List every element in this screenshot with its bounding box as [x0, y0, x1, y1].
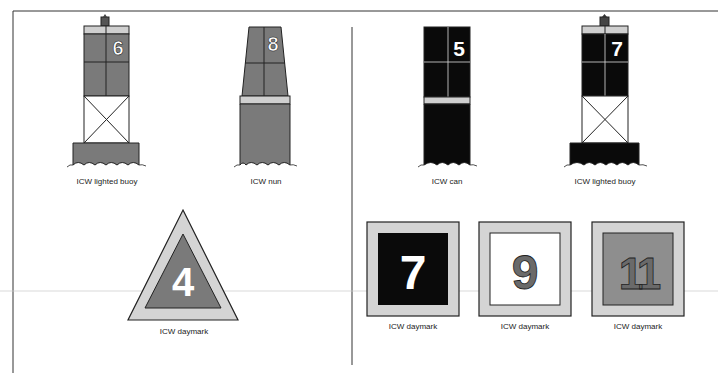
- green-square-daymark-black-icon: 7: [367, 222, 459, 316]
- svg-text:7: 7: [611, 37, 623, 60]
- caption-triangle-daymark: ICW daymark: [160, 327, 208, 336]
- svg-text:9: 9: [512, 246, 539, 299]
- green-can-icon: 5: [418, 27, 477, 167]
- caption-red-nun: ICW nun: [250, 177, 281, 186]
- svg-text:4: 4: [172, 260, 195, 304]
- caption-red-lighted-buoy: ICW lighted buoy: [77, 177, 138, 186]
- red-nun-icon: 8: [234, 27, 297, 167]
- caption-square-daymark-9: ICW daymark: [501, 322, 549, 331]
- svg-text:8: 8: [267, 33, 278, 55]
- svg-text:5: 5: [453, 37, 465, 60]
- caption-square-daymark-7: ICW daymark: [389, 322, 437, 331]
- red-triangle-daymark-icon: 4: [128, 210, 238, 320]
- caption-green-can: ICW can: [432, 177, 463, 186]
- caption-green-lighted-buoy: ICW lighted buoy: [575, 177, 636, 186]
- green-lighted-buoy-icon: 7: [564, 14, 647, 167]
- svg-text:11: 11: [619, 249, 661, 298]
- diagram-canvas: 6 8 5 7 4: [0, 0, 718, 373]
- green-square-daymark-white-icon: 9: [479, 222, 571, 316]
- red-lighted-buoy-icon: 6: [67, 14, 146, 167]
- svg-text:6: 6: [112, 37, 123, 59]
- green-square-daymark-grey-icon: 11: [592, 222, 684, 316]
- svg-text:7: 7: [400, 246, 427, 299]
- caption-square-daymark-11: ICW daymark: [614, 322, 662, 331]
